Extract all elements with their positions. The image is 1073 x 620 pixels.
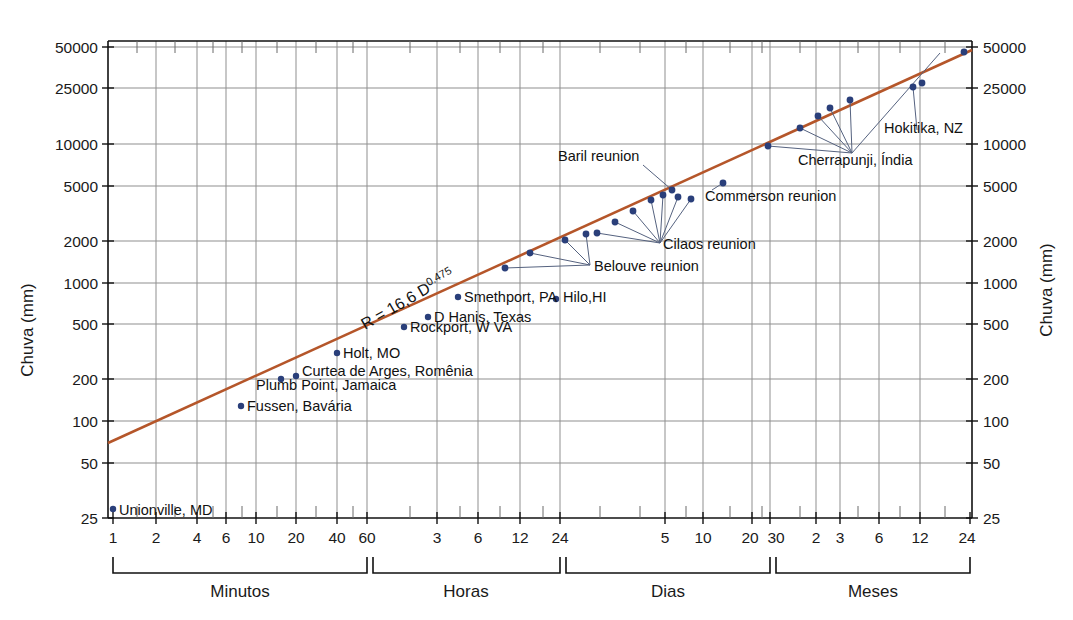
- y-tick-label-right: 2000: [983, 233, 1018, 250]
- label-curtea: Curtea de Arges, Romênia: [302, 363, 474, 379]
- label-holt: Holt, MO: [343, 345, 400, 361]
- label-commerson: Commerson reunion: [705, 188, 836, 204]
- x-tick-label: 1: [109, 529, 118, 546]
- label-d-hanis: D Hanis, Texas: [434, 309, 531, 325]
- y-tick-label: 25000: [55, 80, 98, 97]
- data-point: [910, 84, 917, 91]
- data-point: [815, 113, 822, 120]
- y-tick-label: 100: [72, 413, 98, 430]
- y-axis-labels-right: 50000 25000 10000 5000 2000 1000 500 200…: [983, 39, 1026, 527]
- x-tick-label: 6: [222, 529, 231, 546]
- y-tick-label-right: 10000: [983, 136, 1026, 153]
- data-point: [401, 324, 407, 330]
- x-group-labels: Minutos Horas Dias Meses: [210, 582, 898, 601]
- data-point: [675, 194, 682, 201]
- data-point: [594, 230, 601, 237]
- y-tick-label-right: 200: [983, 371, 1009, 388]
- label-fussen: Fussen, Bavária: [247, 398, 353, 414]
- label-belouve: Belouve reunion: [594, 258, 699, 274]
- data-point: [562, 237, 569, 244]
- y-axis-labels-left: 50000 25000 10000 5000 2000 1000 500 200…: [55, 39, 98, 527]
- y-tick-label-right: 100: [983, 413, 1009, 430]
- equation-exponent: 0.475: [424, 264, 454, 288]
- y-tick-label: 50000: [55, 39, 98, 56]
- x-tick-label: 24: [551, 529, 569, 546]
- data-point: [720, 180, 727, 187]
- label-cherrapunji: Cherrapunji, Índia: [798, 152, 913, 168]
- data-point: [827, 105, 834, 112]
- point-labels: Unionville, MD Fussen, Bavária Plumb Poi…: [119, 120, 963, 518]
- x-tick-label: 4: [193, 529, 202, 546]
- label-hilo: Hilo,HI: [563, 289, 607, 305]
- group-label-horas: Horas: [443, 582, 488, 601]
- y-tick-label-right: 25: [983, 510, 1000, 527]
- bracket-meses: [776, 557, 970, 573]
- group-label-meses: Meses: [848, 582, 898, 601]
- data-point: [334, 350, 340, 356]
- x-tick-label: 10: [247, 529, 265, 546]
- x-tick-label: 24: [958, 529, 976, 546]
- y-tick-label-right: 50: [983, 455, 1001, 472]
- data-point: [502, 265, 509, 272]
- data-point: [238, 403, 244, 409]
- y-axis-title-left: Chuva (mm): [18, 283, 37, 377]
- bracket-dias: [566, 557, 770, 573]
- label-unionville: Unionville, MD: [119, 502, 212, 518]
- data-point: [455, 294, 461, 300]
- bottom-minor-ticks: [137, 506, 945, 518]
- y-tick-label: 50: [81, 455, 99, 472]
- trend-line: [108, 50, 972, 443]
- x-tick-label: 5: [661, 529, 670, 546]
- y-tick-label: 200: [72, 371, 98, 388]
- data-point: [527, 250, 534, 257]
- data-point: [765, 143, 772, 150]
- x-tick-label: 2: [812, 529, 821, 546]
- data-point: [110, 506, 116, 512]
- y-tick-label-right: 50000: [983, 39, 1026, 56]
- data-point: [688, 196, 695, 203]
- axis-frame: [108, 41, 972, 518]
- x-axis-labels: 1 2 4 6 10 20 40 60 3 6 12 24 5 10 20 30…: [109, 529, 976, 546]
- y-tick-label-right: 1000: [983, 275, 1018, 292]
- data-point: [847, 97, 854, 104]
- group-label-dias: Dias: [651, 582, 685, 601]
- x-tick-label: 3: [433, 529, 442, 546]
- x-tick-label: 6: [875, 529, 884, 546]
- group-label-minutos: Minutos: [210, 582, 270, 601]
- x-tick-label: 40: [328, 529, 346, 546]
- x-tick-label: 10: [694, 529, 712, 546]
- data-point: [919, 80, 926, 87]
- grid-lines: [108, 41, 972, 518]
- y-tick-label-right: 25000: [983, 80, 1026, 97]
- y-tick-label: 10000: [55, 136, 98, 153]
- y-tick-label-right: 5000: [983, 178, 1018, 195]
- data-points: [110, 49, 968, 513]
- x-tick-label: 60: [358, 529, 376, 546]
- x-tick-label: 20: [287, 529, 305, 546]
- y-tick-label: 2000: [64, 233, 99, 250]
- x-tick-label: 3: [836, 529, 845, 546]
- rainfall-duration-chart: 50000 25000 10000 5000 2000 1000 500 200…: [0, 0, 1073, 620]
- label-cilaos: Cilaos reunion: [663, 236, 756, 252]
- label-hokitika: Hokitika, NZ: [884, 120, 963, 136]
- data-point: [961, 49, 968, 56]
- y-tick-label: 25: [81, 510, 98, 527]
- x-group-brackets: [113, 557, 970, 573]
- chart-svg: 50000 25000 10000 5000 2000 1000 500 200…: [0, 0, 1073, 620]
- x-tick-label: 12: [511, 529, 528, 546]
- data-point: [583, 231, 590, 238]
- data-point: [660, 192, 667, 199]
- data-point: [612, 219, 619, 226]
- x-tick-label: 30: [767, 529, 785, 546]
- x-tick-label: 12: [911, 529, 928, 546]
- bracket-minutos: [113, 557, 367, 573]
- x-tick-label: 6: [474, 529, 483, 546]
- y-tick-label: 5000: [64, 178, 99, 195]
- data-point: [648, 197, 655, 204]
- data-point: [797, 125, 804, 132]
- label-baril: Baril reunion: [558, 148, 639, 164]
- x-tick-label: 2: [152, 529, 161, 546]
- x-tick-label: 20: [741, 529, 759, 546]
- data-point: [669, 187, 676, 194]
- data-point: [630, 208, 637, 215]
